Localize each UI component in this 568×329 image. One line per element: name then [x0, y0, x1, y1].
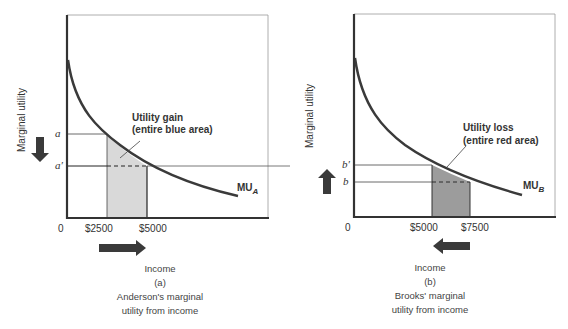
panel-a-x-tick-2500: $2500 [85, 223, 113, 234]
panel-b-graph [318, 14, 556, 254]
utility-loss-sublabel: (entire red area) [463, 135, 539, 146]
panel-b-caption-line1: Brooks' marginal [380, 289, 480, 303]
mu-a-subscript: A [253, 187, 259, 196]
panel-a-graph [31, 15, 290, 256]
utility-gain-sublabel: (entire blue area) [132, 124, 213, 135]
arrow-down-icon [31, 137, 49, 162]
panel-a-caption-line2: utility from income [110, 304, 210, 318]
panel-a-letter: (a) [110, 276, 210, 290]
panel-b-y-axis-label: Marginal utility [304, 84, 315, 148]
panel-a-origin: 0 [58, 223, 64, 234]
panel-a-y-axis-label: Marginal utility [16, 88, 27, 152]
utility-gain-area [107, 134, 147, 218]
utility-gain-label: Utility gain [132, 112, 183, 123]
panel-a-x-tick-5000: $5000 [139, 223, 167, 234]
mu-b-label: MUB [523, 180, 544, 194]
panel-a-y-tick-a: a [55, 127, 61, 139]
mu-a-text: MU [237, 182, 253, 193]
loss-leader-line [447, 146, 466, 167]
mu-b-text: MU [523, 180, 539, 191]
panel-b-caption-line2: utility from income [380, 303, 480, 317]
panel-a-caption: Income (a) Anderson's marginal utility f… [110, 262, 210, 318]
panel-a-x-axis-label: Income [110, 262, 210, 276]
panel-b-y-tick-b-prime: b′ [342, 158, 350, 170]
panel-b-letter: (b) [380, 275, 480, 289]
panel-b-x-tick-5000: $5000 [410, 222, 438, 233]
panel-b-origin: 0 [345, 222, 351, 233]
arrow-left-icon [433, 238, 470, 254]
utility-loss-label: Utility loss [463, 122, 514, 133]
panel-b-y-tick-b: b [343, 175, 349, 187]
panel-b-x-tick-7500: $7500 [461, 222, 489, 233]
arrow-up-icon [318, 169, 336, 194]
utility-loss-area [432, 165, 470, 217]
mu-a-label: MUA [237, 182, 258, 196]
arrow-right-icon [99, 240, 146, 256]
panel-b-x-axis-label: Income [380, 261, 480, 275]
panel-b-caption: Income (b) Brooks' marginal utility from… [380, 261, 480, 317]
diagram-canvas [0, 0, 568, 329]
panel-a-y-tick-a-prime: a′ [55, 159, 63, 171]
mu-b-subscript: B [539, 185, 545, 194]
panel-a-caption-line1: Anderson's marginal [110, 290, 210, 304]
